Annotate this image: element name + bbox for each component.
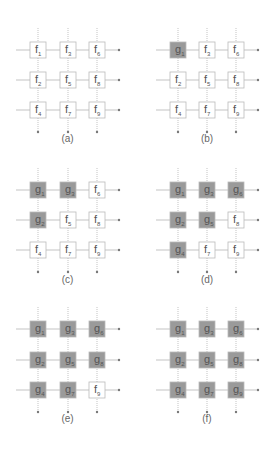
cell-g6: g6	[228, 321, 244, 337]
cell-f1: f1	[30, 42, 46, 58]
panel-caption: (a)	[61, 133, 73, 144]
arrow-head-icon	[118, 389, 120, 391]
cell-f4: f4	[30, 102, 46, 118]
arrow-head-icon	[118, 219, 120, 221]
cell-g8: g8	[89, 352, 105, 368]
cell-g3: g3	[199, 182, 215, 198]
cell-f9: f9	[89, 382, 105, 398]
cell-f3: f3	[199, 42, 215, 58]
cell-g2: g2	[30, 352, 46, 368]
arrow-head-icon	[96, 131, 98, 133]
cell-f9: f9	[228, 242, 244, 258]
panel-caption: (f)	[202, 413, 211, 424]
cell-g3: g3	[60, 182, 76, 198]
cell-f5: f5	[199, 72, 215, 88]
cell-f7: f7	[199, 242, 215, 258]
cell-f4: f4	[30, 242, 46, 258]
cell-f3: f3	[60, 42, 76, 58]
cell-g2: g2	[170, 212, 186, 228]
arrow-head-icon	[257, 189, 259, 191]
cell-f6: f6	[89, 182, 105, 198]
cell-g1: g1	[170, 321, 186, 337]
cell-g4: g4	[30, 382, 46, 398]
cell-f2: f2	[30, 72, 46, 88]
arrow-head-icon	[177, 411, 179, 413]
panel-b: g1f3f6f2f5f8f4f7f9(b)	[156, 28, 259, 144]
arrow-head-icon	[177, 271, 179, 273]
cell-g1: g1	[30, 182, 46, 198]
cell-f7: f7	[60, 242, 76, 258]
cell-g9: g9	[228, 382, 244, 398]
arrow-head-icon	[257, 49, 259, 51]
arrow-head-icon	[118, 109, 120, 111]
cell-g1: g1	[170, 182, 186, 198]
arrow-head-icon	[257, 249, 259, 251]
cell-f7: f7	[60, 102, 76, 118]
panel-caption: (b)	[201, 133, 213, 144]
panel-a: f1f3f6f2f5f8f4f7f9(a)	[16, 28, 120, 144]
panel-f: g1g3g6g2g5g8g4g7g9(f)	[156, 307, 259, 424]
panel-e: g1g3g6g2g5g8g4g7f9(e)	[16, 307, 120, 424]
cell-f6: f6	[89, 42, 105, 58]
panel-caption: (e)	[61, 413, 73, 424]
cell-g5: g5	[199, 212, 215, 228]
cell-f9: f9	[89, 242, 105, 258]
cell-f5: f5	[60, 212, 76, 228]
cell-f8: f8	[89, 72, 105, 88]
wavefront-diagram: f1f3f6f2f5f8f4f7f9(a)g1f3f6f2f5f8f4f7f9(…	[0, 0, 272, 449]
cell-f9: f9	[89, 102, 105, 118]
arrow-head-icon	[37, 411, 39, 413]
cell-g2: g2	[30, 212, 46, 228]
panel-d: g1g3g6g2g5f8g4f7f9(d)	[156, 168, 259, 285]
cell-g3: g3	[60, 321, 76, 337]
cell-g8: g8	[228, 352, 244, 368]
cell-g5: g5	[60, 352, 76, 368]
cell-g5: g5	[199, 352, 215, 368]
arrow-head-icon	[257, 109, 259, 111]
arrow-head-icon	[206, 271, 208, 273]
arrow-head-icon	[96, 271, 98, 273]
cell-f6: f6	[228, 42, 244, 58]
arrow-head-icon	[118, 328, 120, 330]
cell-f8: f8	[89, 212, 105, 228]
arrow-head-icon	[235, 411, 237, 413]
panel-caption: (d)	[201, 274, 213, 285]
arrow-head-icon	[118, 359, 120, 361]
arrow-head-icon	[257, 359, 259, 361]
cell-g1: g1	[170, 42, 186, 58]
panel-caption: (c)	[62, 274, 74, 285]
cell-g2: g2	[170, 352, 186, 368]
cell-f5: f5	[60, 72, 76, 88]
arrow-head-icon	[257, 79, 259, 81]
cell-g1: g1	[30, 321, 46, 337]
panel-c: g1g3f6g2f5f8f4f7f9(c)	[16, 168, 120, 285]
cell-g3: g3	[199, 321, 215, 337]
arrow-head-icon	[118, 249, 120, 251]
cell-f4: f4	[170, 102, 186, 118]
cell-g6: g6	[89, 321, 105, 337]
arrow-head-icon	[118, 189, 120, 191]
cell-g7: g7	[199, 382, 215, 398]
arrow-head-icon	[257, 328, 259, 330]
arrow-head-icon	[177, 131, 179, 133]
cell-g7: g7	[60, 382, 76, 398]
arrow-head-icon	[118, 49, 120, 51]
cell-f8: f8	[228, 212, 244, 228]
arrow-head-icon	[235, 271, 237, 273]
cell-g4: g4	[170, 242, 186, 258]
cell-f7: f7	[199, 102, 215, 118]
arrow-head-icon	[37, 271, 39, 273]
arrow-head-icon	[96, 411, 98, 413]
arrow-head-icon	[37, 131, 39, 133]
cell-f9: f9	[228, 102, 244, 118]
arrow-head-icon	[118, 79, 120, 81]
cell-f2: f2	[170, 72, 186, 88]
arrow-head-icon	[235, 131, 237, 133]
arrow-head-icon	[257, 219, 259, 221]
cell-g6: g6	[228, 182, 244, 198]
arrow-head-icon	[67, 271, 69, 273]
cell-f8: f8	[228, 72, 244, 88]
arrow-head-icon	[257, 389, 259, 391]
cell-g4: g4	[170, 382, 186, 398]
